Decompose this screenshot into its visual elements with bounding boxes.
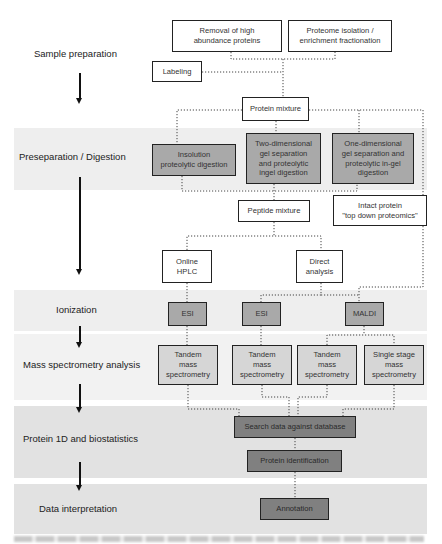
one-dimensional-gel-box: One-dimensional gel separation and prote… <box>332 133 414 184</box>
tandem-ms-box-1: Tandem mass spectrometry <box>158 345 218 385</box>
two-dimensional-gel-box: Two-dimensional gel separation and prote… <box>246 133 321 184</box>
online-hplc-box: Online HPLC <box>162 250 212 283</box>
esi-box-1: ESI <box>168 302 207 326</box>
direct-analysis-box: Direct analysis <box>296 250 343 283</box>
annotation-box: Annotation <box>260 498 329 520</box>
maldi-box: MALDI <box>345 302 384 326</box>
dotted-connectors <box>0 0 442 544</box>
protein-mixture-box: Protein mixture <box>242 97 309 121</box>
insolution-digestion-box: Insolution proteolytic digestion <box>152 144 236 176</box>
removal-high-abundance-box: Removal of high abundance proteins <box>172 20 282 52</box>
esi-box-2: ESI <box>242 302 281 326</box>
peptide-mixture-box: Peptide mixture <box>238 200 310 222</box>
search-database-box: Search data against database <box>234 416 356 438</box>
proteome-isolation-box: Proteome isolation / enrichment fraction… <box>288 20 392 52</box>
tandem-ms-box-3: Tandem mass spectrometry <box>297 345 357 385</box>
labeling-box: Labeling <box>152 61 202 82</box>
figure-caption-blurred <box>14 536 424 542</box>
intact-protein-box: Intact protein "top down proteomics" <box>333 195 427 226</box>
single-stage-ms-box: Single stage mass spectrometry <box>364 345 424 385</box>
protein-identification-box: Protein identification <box>247 450 342 472</box>
tandem-ms-box-2: Tandem mass spectrometry <box>232 345 292 385</box>
